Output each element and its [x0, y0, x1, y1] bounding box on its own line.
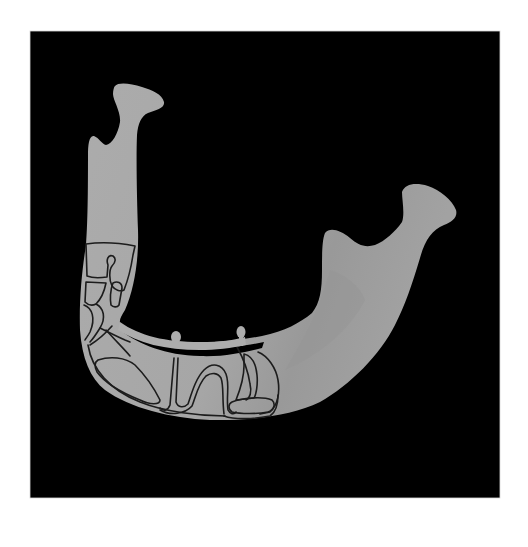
lingual-post-right-stem [239, 332, 243, 346]
mandible-figure [0, 0, 528, 547]
lingual-post-left-stem [174, 337, 178, 347]
